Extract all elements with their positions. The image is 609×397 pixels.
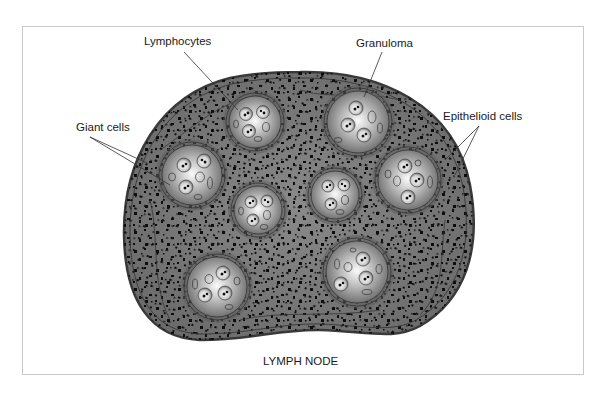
granuloma-g1 [223, 90, 287, 154]
granuloma-g6 [228, 180, 288, 240]
granuloma-g8 [320, 235, 394, 309]
label-lymphocytes: Lymphocytes [144, 35, 211, 47]
granuloma-g3 [156, 139, 228, 211]
granuloma-g2 [321, 85, 395, 159]
granuloma-g7 [181, 251, 253, 323]
label-epithelioid-cells: Epithelioid cells [443, 110, 522, 122]
granuloma-g4 [372, 144, 444, 216]
label-granuloma: Granuloma [356, 37, 413, 49]
lymph-node-diagram [0, 0, 609, 397]
label-giant-cells: Giant cells [76, 121, 130, 133]
granuloma-g5 [305, 165, 365, 225]
figure-title: LYMPH NODE [263, 355, 338, 367]
